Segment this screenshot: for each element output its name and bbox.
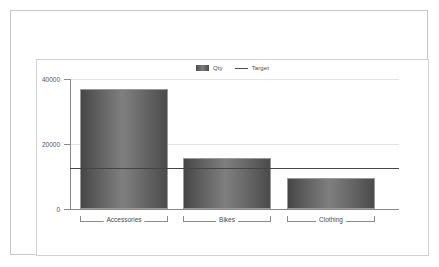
legend-label-target: Target bbox=[252, 65, 269, 71]
legend-label-qty: Qty bbox=[213, 65, 223, 71]
gridline-40000 bbox=[70, 79, 399, 80]
category-group-clothing: Clothing bbox=[287, 216, 375, 236]
legend-entry-target: Target bbox=[235, 65, 269, 71]
x-axis-line bbox=[70, 209, 399, 210]
category-label-bikes: Bikes bbox=[216, 216, 238, 223]
category-label-clothing: Clothing bbox=[316, 216, 346, 223]
y-tick-label-0: 0 bbox=[4, 206, 60, 213]
y-tick-mark-40000 bbox=[64, 79, 70, 80]
y-axis-line bbox=[70, 79, 71, 210]
category-label-accessories: Accessories bbox=[103, 216, 144, 223]
legend-bar-swatch-icon bbox=[196, 65, 209, 71]
bar-accessories[interactable] bbox=[80, 89, 168, 209]
target-reference-line bbox=[70, 168, 399, 169]
bar-clothing[interactable] bbox=[287, 178, 375, 209]
legend-entry-qty: Qty bbox=[196, 65, 223, 71]
legend-line-swatch-icon bbox=[235, 68, 248, 69]
y-tick-mark-20000 bbox=[64, 144, 70, 145]
bar-bikes[interactable] bbox=[183, 158, 271, 209]
category-group-bikes: Bikes bbox=[183, 216, 271, 236]
category-group-accessories: Accessories bbox=[80, 216, 168, 236]
y-tick-label-40000: 40000 bbox=[4, 76, 60, 83]
y-tick-mark-0 bbox=[64, 209, 70, 210]
chart-legend: Qty Target bbox=[37, 65, 428, 71]
y-tick-label-20000: 20000 bbox=[4, 141, 60, 148]
